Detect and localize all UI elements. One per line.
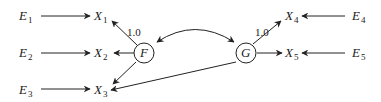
svg-text:2: 2: [28, 52, 33, 62]
svg-text:E: E: [18, 8, 27, 23]
svg-text:E: E: [351, 45, 360, 60]
svg-text:E: E: [18, 45, 27, 60]
svg-text:4: 4: [361, 15, 366, 25]
edge-f-x3: [113, 62, 136, 84]
error-node-e3: E 3: [18, 82, 33, 99]
observed-node-x1: X 1: [93, 8, 108, 25]
svg-text:5: 5: [361, 52, 366, 62]
observed-node-x4: X 4: [284, 8, 299, 25]
latent-factor-f: F: [134, 43, 154, 63]
svg-text:4: 4: [294, 15, 299, 25]
svg-text:X: X: [284, 45, 294, 60]
svg-text:G: G: [241, 45, 251, 60]
edge-f-g-covariance: [157, 30, 234, 43]
svg-text:X: X: [93, 82, 103, 97]
svg-text:1: 1: [28, 15, 33, 25]
svg-text:3: 3: [28, 89, 33, 99]
svg-text:X: X: [93, 8, 103, 23]
error-node-e5: E 5: [351, 45, 366, 62]
error-node-e1: E 1: [18, 8, 33, 25]
svg-text:E: E: [351, 8, 360, 23]
loading-label-g-x4: 1.0: [255, 26, 269, 38]
edge-g-x3: [111, 62, 236, 90]
observed-node-x5: X 5: [284, 45, 299, 62]
svg-text:1: 1: [103, 15, 108, 25]
svg-text:2: 2: [103, 52, 108, 62]
path-diagram: E 1 E 2 E 3 X 1 X 2 X 3 F 1.0 G: [0, 0, 381, 102]
error-node-e2: E 2: [18, 45, 33, 62]
observed-node-x2: X 2: [93, 45, 108, 62]
svg-text:5: 5: [294, 52, 299, 62]
svg-text:F: F: [139, 45, 149, 60]
svg-text:X: X: [93, 45, 103, 60]
latent-factor-g: G: [236, 43, 256, 63]
error-node-e4: E 4: [351, 8, 366, 25]
observed-node-x3: X 3: [93, 82, 108, 99]
loading-label-f-x1: 1.0: [127, 26, 141, 38]
svg-text:3: 3: [103, 89, 108, 99]
svg-text:E: E: [18, 82, 27, 97]
svg-text:X: X: [284, 8, 294, 23]
